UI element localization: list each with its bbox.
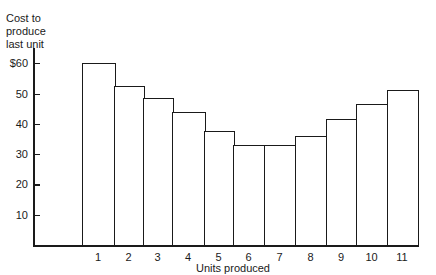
bar-unit-11: [387, 90, 419, 245]
y-axis-label-line: produce: [6, 25, 76, 38]
x-axis-label: Units produced: [0, 262, 436, 274]
y-tick: [33, 63, 40, 64]
bar-unit-7: [264, 145, 297, 245]
bar-unit-2: [114, 86, 145, 245]
y-tick: [33, 184, 40, 185]
y-axis-label-line: Cost to: [6, 12, 76, 25]
bar-unit-10: [356, 104, 389, 245]
y-tick: [33, 215, 40, 216]
y-tick: [33, 154, 40, 155]
y-tick-label: 10: [0, 209, 28, 221]
bar-unit-3: [143, 98, 174, 245]
y-tick-label: $60: [0, 57, 28, 69]
y-tick: [33, 94, 40, 95]
y-tick-label: 50: [0, 88, 28, 100]
y-tick-label: 20: [0, 178, 28, 190]
bar-unit-9: [326, 119, 358, 245]
bar-unit-6: [233, 145, 266, 245]
bar-unit-1: [82, 63, 116, 245]
y-tick-label: 30: [0, 148, 28, 160]
y-axis-label: Cost to produce last unit: [6, 12, 76, 51]
x-axis: [33, 245, 419, 247]
y-axis-label-line: last unit: [6, 38, 76, 51]
y-tick-label: 40: [0, 118, 28, 130]
bar-unit-4: [172, 112, 206, 245]
y-tick: [33, 124, 40, 125]
bar-unit-8: [295, 136, 328, 245]
y-axis: [33, 48, 35, 246]
bar-unit-5: [204, 131, 235, 245]
